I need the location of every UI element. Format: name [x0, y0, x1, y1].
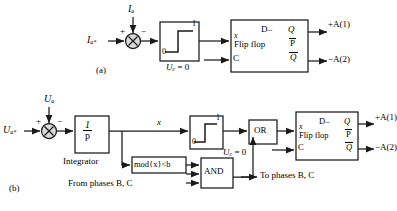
output-negative-b: −A(2) — [375, 143, 397, 152]
flipflop-name-b: Flip flop — [299, 131, 329, 140]
signal-x-label-b: x — [157, 118, 161, 127]
input-ref-label-a: Ia* — [87, 35, 96, 45]
sum-plus-sign-a: + — [120, 27, 125, 36]
flipflop-d-label-b: D– — [319, 117, 329, 126]
caption-b: (b) — [9, 184, 20, 193]
feedback-label-b: Ua — [44, 94, 54, 104]
sum-minus-sign-b: − — [57, 117, 62, 126]
flipflop-p-label-a: P — [289, 38, 296, 48]
relay-low-label-b: 0 — [192, 138, 196, 146]
or-gate-label: OR — [254, 126, 267, 135]
feedback-label-a: Ia — [128, 4, 134, 14]
from-phases-label: From phases B, C — [68, 179, 133, 188]
to-phases-label: To phases B, C — [260, 171, 314, 180]
sum-minus-sign-a: − — [141, 27, 146, 36]
flipflop-p-label-b: P — [345, 129, 352, 139]
flipflop-c-label-a: C — [233, 54, 239, 63]
integrator-caption: Integrator — [63, 157, 98, 166]
flipflop-d-label-a: D– — [261, 25, 272, 34]
flipflop-q-label-a: Q — [288, 25, 295, 34]
mod-block-label: mod{x}<b — [134, 160, 171, 169]
relay-high-label-a: 1 — [192, 20, 196, 28]
flipflop-qbar-label-b: Q — [345, 142, 353, 152]
relay-low-label-a: 0 — [162, 48, 166, 56]
output-positive-b: +A(1) — [375, 113, 397, 122]
caption-a: (a) — [96, 66, 106, 75]
integrator-expression: 1p — [83, 120, 92, 141]
and-gate-label: AND — [204, 167, 224, 176]
flipflop-c-label-b: C — [298, 143, 304, 152]
flipflop-q-label-b: Q — [344, 117, 350, 126]
clock-label-b: Uc = 0 — [223, 148, 246, 157]
flipflop-name-a: Flip flop — [234, 40, 265, 49]
input-ref-label-b: Ua* — [3, 125, 16, 135]
flipflop-qbar-label-a: Q — [289, 52, 298, 62]
output-positive-a: +A(1) — [328, 20, 350, 29]
relay-high-label-b: 1 — [216, 114, 220, 122]
clock-label-a: Uc = 0 — [166, 63, 189, 72]
output-negative-a: −A(2) — [328, 55, 350, 64]
sum-plus-sign-b: + — [36, 117, 41, 126]
